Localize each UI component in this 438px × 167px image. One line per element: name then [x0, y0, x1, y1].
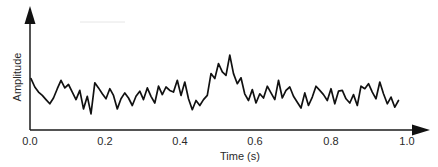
amplitude-time-chart: 0.0 0.2 0.4 0.6 0.8 1.0 Time (s) Amplitu…	[0, 0, 438, 167]
chart-canvas: 0.0 0.2 0.4 0.6 0.8 1.0 Time (s) Amplitu…	[0, 0, 438, 167]
x-tick-label: 0.0	[22, 135, 37, 147]
x-tick-label: 0.8	[323, 135, 338, 147]
x-tick-labels: 0.0 0.2 0.4 0.6 0.8 1.0	[22, 135, 414, 147]
x-tick-label: 1.0	[399, 135, 414, 147]
x-tick-label: 0.2	[97, 135, 112, 147]
y-axis-label: Amplitude	[11, 53, 23, 102]
x-tick-label: 0.6	[247, 135, 262, 147]
y-axis-arrow-icon	[25, 6, 36, 24]
x-axis-arrow-icon	[412, 125, 430, 136]
x-axis-label: Time (s)	[220, 150, 260, 162]
signal-waveform	[31, 55, 399, 114]
x-tick-label: 0.4	[172, 135, 187, 147]
